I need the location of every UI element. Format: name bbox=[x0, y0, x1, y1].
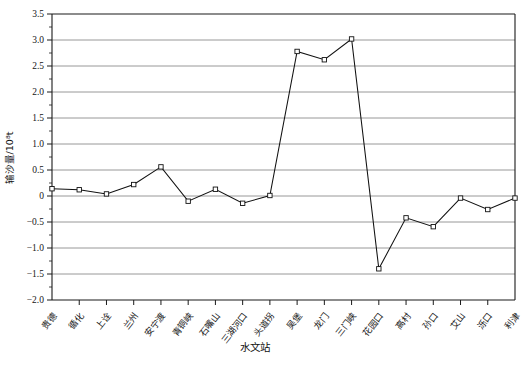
data-point-marker bbox=[240, 201, 244, 205]
data-point-marker bbox=[77, 188, 81, 192]
y-tick-label: −1.0 bbox=[27, 243, 44, 253]
y-tick-label: 0 bbox=[39, 191, 44, 201]
data-point-marker bbox=[404, 216, 408, 220]
data-point-marker bbox=[213, 187, 217, 191]
y-tick-label: −2.0 bbox=[27, 295, 44, 305]
data-point-marker bbox=[295, 49, 299, 53]
data-point-marker bbox=[431, 224, 435, 228]
data-point-marker bbox=[159, 165, 163, 169]
chart-background bbox=[0, 0, 525, 365]
y-tick-label: 2.0 bbox=[32, 87, 44, 97]
y-tick-label: 2.5 bbox=[32, 61, 44, 71]
data-point-marker bbox=[349, 37, 353, 41]
chart-canvas: 3.53.02.52.01.51.00.50−0.5−1.0−1.5−2.0 贵… bbox=[0, 0, 525, 365]
y-tick-label: −0.5 bbox=[27, 217, 44, 227]
data-point-marker bbox=[104, 192, 108, 196]
x-axis-title: 水文站 bbox=[240, 341, 271, 353]
y-tick-label: 1.5 bbox=[32, 113, 44, 123]
sediment-discharge-line-chart: 3.53.02.52.01.51.00.50−0.5−1.0−1.5−2.0 贵… bbox=[0, 0, 525, 365]
data-point-marker bbox=[268, 193, 272, 197]
y-tick-label: 3.5 bbox=[32, 9, 44, 19]
y-tick-label: 1.0 bbox=[32, 139, 44, 149]
y-tick-label: −1.5 bbox=[27, 269, 44, 279]
y-tick-label: 3.0 bbox=[32, 35, 44, 45]
data-point-marker bbox=[486, 207, 490, 211]
data-point-marker bbox=[458, 196, 462, 200]
data-point-marker bbox=[377, 267, 381, 271]
data-point-marker bbox=[186, 199, 190, 203]
y-tick-label: 0.5 bbox=[32, 165, 44, 175]
y-axis-title: 输沙量/10⁸t bbox=[4, 131, 15, 184]
data-point-marker bbox=[513, 196, 517, 200]
data-point-marker bbox=[50, 187, 54, 191]
data-point-marker bbox=[132, 182, 136, 186]
data-point-marker bbox=[322, 58, 326, 62]
